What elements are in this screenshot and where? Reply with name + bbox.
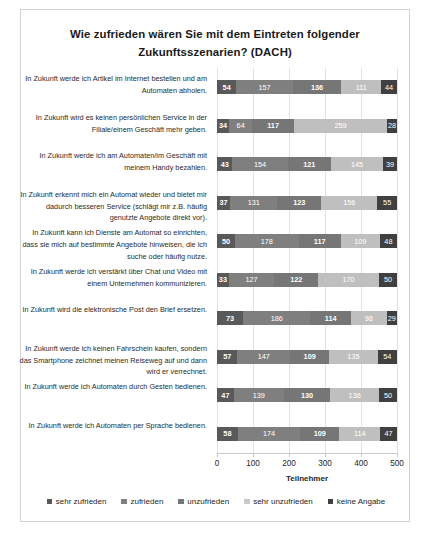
category-label: In Zukunft kann ich Dienste am Automat s… [19,227,215,262]
bar-segment[interactable]: 29 [387,311,397,325]
legend-item[interactable]: sehr zufrieden [47,497,107,506]
bar-segment[interactable]: 37 [217,196,230,210]
bar-segment[interactable]: 136 [330,388,379,402]
bar-segment[interactable]: 54 [217,80,236,94]
bar-segment[interactable]: 123 [277,196,321,210]
x-axis-title: Teilnehmer [217,474,397,483]
x-tick-100 [253,453,254,457]
bar-segment[interactable]: 157 [236,80,292,94]
stacked-bar-row[interactable]: 731861149829 [217,311,397,325]
bar-segment[interactable]: 122 [274,273,318,287]
bar-segment[interactable]: 139 [234,388,284,402]
bar-value-label: 117 [267,121,279,130]
chart-title-line-2: Zukunftsszenarien? (DACH) [138,46,292,58]
bar-segment[interactable]: 58 [217,427,238,441]
bar-segment[interactable]: 28 [387,119,397,133]
x-tick-500 [397,453,398,457]
legend-item[interactable]: sehr unzufrieden [244,497,313,506]
legend-swatch-icon [328,499,334,505]
bar-segment[interactable]: 178 [235,234,299,248]
bar-value-label: 157 [258,83,270,92]
bar-value-label: 57 [223,352,231,361]
bar-segment[interactable]: 33 [217,273,229,287]
bar-segment[interactable]: 135 [329,350,377,364]
bar-segment[interactable]: 156 [321,196,377,210]
bar-value-label: 98 [365,314,373,323]
bar-segment[interactable]: 98 [351,311,386,325]
bar-segment[interactable]: 186 [243,311,310,325]
bar-segment[interactable]: 111 [341,80,381,94]
bar-segment[interactable]: 47 [217,388,234,402]
bar-segment[interactable]: 109 [341,234,380,248]
stacked-bar-row[interactable]: 5714710913554 [217,350,397,364]
stacked-bar-row[interactable]: 3312712217050 [217,273,397,287]
bar-segment[interactable]: 47 [380,427,397,441]
category-label: In Zukunft werde ich am Automaten/im Ges… [19,150,215,174]
bar-segment[interactable]: 109 [290,350,329,364]
bar-segment[interactable]: 109 [300,427,339,441]
stacked-bar-row[interactable]: 4315412114539 [217,157,397,171]
category-label: In Zukunft werde ich keinen Fahrschein k… [19,343,215,378]
x-tick-label-500: 500 [390,459,404,468]
bar-value-label: 50 [222,237,230,246]
bar-value-label: 34 [219,121,227,130]
bar-segment[interactable]: 64 [229,119,252,133]
bar-segment[interactable]: 114 [339,427,380,441]
category-label: In Zukunft werde ich Artikel im Internet… [19,73,215,97]
bar-segment[interactable]: 131 [230,196,277,210]
stacked-bar-row[interactable]: 5817410911447 [217,427,397,441]
chart-title: Wie zufrieden wären Sie mit dem Eintrete… [21,10,409,65]
category-label: In Zukunft werde ich verstärkt über Chat… [19,266,215,290]
bar-segment[interactable]: 147 [237,350,290,364]
x-tick-label-300: 300 [318,459,332,468]
stacked-bar-row[interactable]: 3713112315655 [217,196,397,210]
bar-segment[interactable]: 54 [378,350,397,364]
bar-segment[interactable]: 174 [238,427,300,441]
bar-value-label: 73 [226,314,234,323]
stacked-bar-row[interactable]: 5017811710948 [217,234,397,248]
bar-segment[interactable]: 130 [284,388,331,402]
bar-segment[interactable]: 154 [232,157,287,171]
bar-segment[interactable]: 57 [217,350,237,364]
bar-segment[interactable]: 50 [379,273,397,287]
bar-value-label: 54 [223,83,231,92]
bar-segment[interactable]: 136 [293,80,342,94]
bar-segment[interactable]: 127 [229,273,275,287]
bar-segment[interactable]: 114 [310,311,351,325]
x-tick-label-200: 200 [282,459,296,468]
bar-segment[interactable]: 43 [217,157,232,171]
bar-segment[interactable]: 55 [377,196,397,210]
bar-value-label: 186 [271,314,283,323]
bar-segment[interactable]: 44 [381,80,397,94]
bar-value-label: 109 [314,429,326,438]
legend-item[interactable]: zufrieden [121,497,163,506]
bar-segment[interactable]: 39 [383,157,397,171]
stacked-bar-row[interactable]: 5415713611144 [217,80,397,94]
bar-segment[interactable]: 170 [318,273,379,287]
legend-item[interactable]: unzufrieden [178,497,229,506]
x-tick-label-0: 0 [215,459,220,468]
legend-item[interactable]: keine Angabe [328,497,386,506]
bar-segment[interactable]: 73 [217,311,243,325]
bar-value-label: 44 [385,83,393,92]
bar-value-label: 33 [219,275,227,284]
bar-value-label: 55 [383,198,391,207]
bar-value-label: 64 [237,121,245,130]
bar-segment[interactable]: 50 [379,388,397,402]
bar-segment[interactable]: 50 [217,234,235,248]
stacked-bar-row[interactable]: 4713913013650 [217,388,397,402]
bar-segment[interactable]: 259 [294,119,387,133]
legend-label: zufrieden [130,497,163,506]
bar-segment[interactable]: 48 [380,234,397,248]
bar-segment[interactable]: 117 [299,234,341,248]
plot-wrap: In Zukunft werde ich Artikel im Internet… [21,68,411,458]
bar-segment[interactable]: 145 [331,157,383,171]
bar-segment[interactable]: 117 [252,119,294,133]
bar-value-label: 127 [246,275,258,284]
stacked-bar-row[interactable]: 346411725928 [217,119,397,133]
bar-segment[interactable]: 34 [217,119,229,133]
bar-segment[interactable]: 121 [288,157,331,171]
bar-value-label: 50 [384,275,392,284]
bar-value-label: 147 [258,352,270,361]
bar-value-label: 122 [290,275,302,284]
